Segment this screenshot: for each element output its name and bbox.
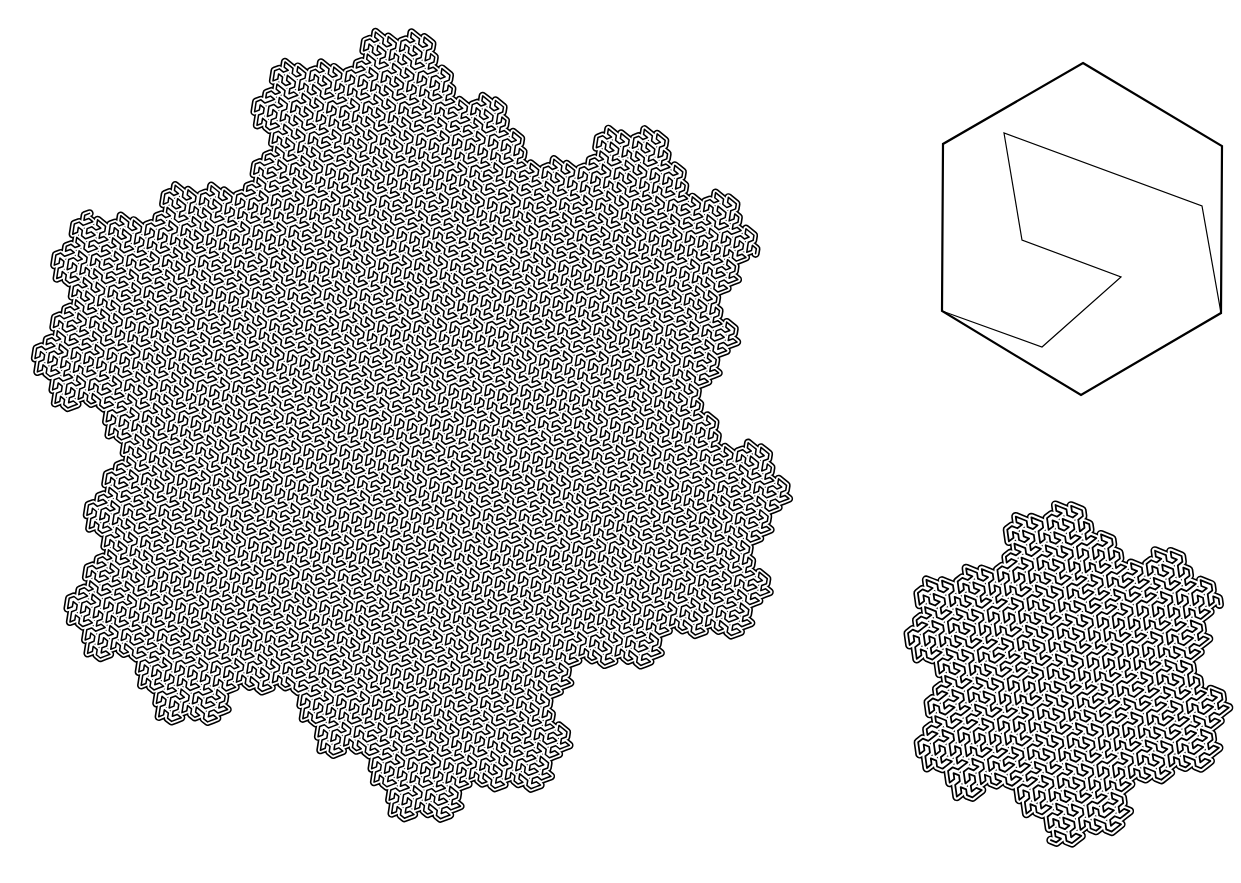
generator-path: [942, 133, 1221, 347]
generator-hexagon: [942, 63, 1222, 395]
figure-canvas-area: Gosper curve (flowsnake): [0, 0, 1241, 883]
generator-diagram: [0, 0, 1241, 883]
